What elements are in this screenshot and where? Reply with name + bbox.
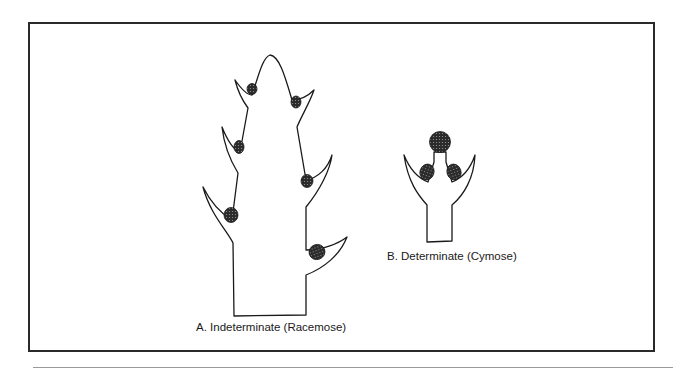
cymose-axis: [404, 152, 475, 242]
bud-left-2: [234, 141, 244, 154]
racemose-axis: [203, 55, 347, 316]
racemose-flower-buds: [224, 84, 327, 262]
bud-right-1: [291, 96, 301, 108]
bud-left-1: [247, 84, 257, 95]
caption-cymose: B. Determinate (Cymose): [387, 250, 517, 262]
bud-right-2: [301, 175, 313, 188]
bottom-divider: [33, 367, 673, 368]
bud-left-3: [224, 208, 238, 223]
inflorescence-diagram: [0, 0, 680, 369]
cymose-flower-buds: [418, 132, 464, 182]
bud-right-3: [307, 242, 327, 262]
bud-terminal: [430, 132, 451, 153]
caption-racemose: A. Indeterminate (Racemose): [196, 321, 346, 333]
